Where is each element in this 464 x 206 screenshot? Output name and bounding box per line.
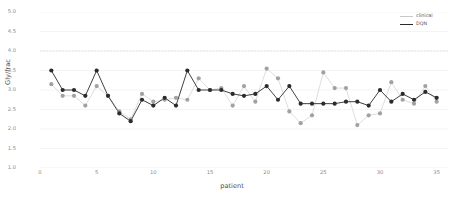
y-tick-label: 5.0 bbox=[0, 9, 16, 14]
x-tick-label: 15 bbox=[198, 170, 222, 175]
x-tick-label: 5 bbox=[85, 170, 109, 175]
x-tick-label: 35 bbox=[425, 170, 449, 175]
x-axis-label: patient bbox=[0, 182, 464, 190]
x-tick-label: 25 bbox=[311, 170, 335, 175]
y-tick-label: 2.5 bbox=[0, 107, 16, 112]
y-tick-label: 1.5 bbox=[0, 146, 16, 151]
x-tick-label: 0 bbox=[28, 170, 52, 175]
x-tick-label: 30 bbox=[368, 170, 392, 175]
y-axis-label-container: Gly/frac bbox=[0, 0, 40, 168]
legend-label-clinical: clinical bbox=[416, 14, 433, 19]
y-tick-label: 3.0 bbox=[0, 87, 16, 92]
y-tick-label: 2.0 bbox=[0, 126, 16, 131]
y-tick-label: 4.5 bbox=[0, 29, 16, 34]
plot-area bbox=[40, 12, 448, 168]
x-tick-label: 10 bbox=[141, 170, 165, 175]
legend-label-dqn: DQN bbox=[416, 22, 427, 27]
x-tick-label: 20 bbox=[255, 170, 279, 175]
legend-item-dqn: DQN bbox=[400, 20, 458, 28]
legend-swatch-dqn bbox=[400, 24, 413, 25]
legend-item-clinical: clinical bbox=[400, 12, 458, 20]
chart-legend: clinical DQN bbox=[400, 12, 458, 28]
chart-canvas bbox=[40, 12, 448, 168]
chart-figure: Gly/frac 1.01.52.02.53.03.54.04.55.0 051… bbox=[0, 0, 464, 206]
legend-swatch-clinical bbox=[400, 16, 413, 17]
y-tick-label: 4.0 bbox=[0, 48, 16, 53]
y-tick-label: 1.0 bbox=[0, 165, 16, 170]
y-tick-label: 3.5 bbox=[0, 68, 16, 73]
